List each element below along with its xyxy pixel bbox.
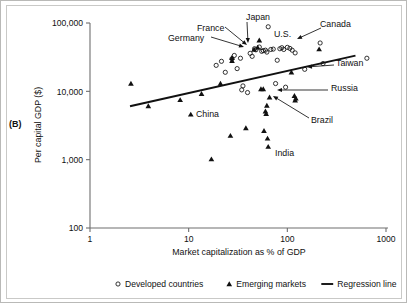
annotation-label-france: France bbox=[197, 23, 224, 33]
data-point-emerging bbox=[128, 81, 134, 86]
data-point-developed bbox=[285, 45, 289, 49]
x-tick-label: 1000 bbox=[376, 234, 395, 244]
x-tick-label: 1 bbox=[88, 234, 93, 244]
data-point-developed bbox=[283, 85, 287, 89]
annotation-leader-line bbox=[300, 28, 321, 38]
data-point-emerging bbox=[265, 144, 271, 149]
data-point-emerging bbox=[261, 128, 267, 133]
data-point-emerging bbox=[243, 125, 249, 130]
data-point-developed bbox=[238, 56, 242, 60]
annotation-label-taiwan: Taiwan bbox=[336, 58, 363, 68]
annotation-leader-line bbox=[276, 98, 309, 118]
data-point-developed bbox=[219, 59, 223, 63]
annotation-arrowhead bbox=[239, 44, 244, 48]
data-point-developed bbox=[266, 25, 270, 29]
legend-label-regression-line: Regression line bbox=[337, 279, 396, 289]
x-axis-ticks: 1101001000 bbox=[88, 228, 396, 244]
axes bbox=[90, 23, 388, 228]
scatter-plot-svg: 1001,00010,000100,000 1101001000 Market … bbox=[1, 1, 407, 303]
y-tick-label: 10,000 bbox=[57, 87, 84, 97]
annotation-label-brazil: Brazil bbox=[311, 115, 333, 125]
data-point-emerging bbox=[316, 46, 322, 51]
data-point-developed bbox=[250, 54, 254, 58]
x-axis-title: Market capitalization as % of GDP bbox=[172, 247, 306, 257]
data-point-emerging bbox=[188, 112, 194, 117]
annotation-label-china: China bbox=[196, 109, 219, 119]
data-point-developed bbox=[245, 90, 249, 94]
legend-label-developed-countries: Developed countries bbox=[125, 279, 203, 289]
annotation-label-india: India bbox=[275, 148, 294, 158]
data-point-developed bbox=[214, 63, 218, 67]
chart-area: 1001,00010,000100,000 1101001000 Market … bbox=[1, 1, 407, 303]
annotation-arrowhead bbox=[273, 96, 278, 100]
annotation-label-germany: Germany bbox=[168, 33, 205, 43]
data-point-emerging bbox=[264, 103, 270, 108]
annotation-label-russia: Russia bbox=[331, 83, 358, 93]
data-point-developed bbox=[235, 67, 239, 71]
data-point-developed bbox=[365, 56, 369, 60]
data-point-developed bbox=[241, 84, 245, 88]
annotation-leader-line bbox=[247, 22, 248, 39]
annotation-label-us: U.S. bbox=[274, 29, 291, 39]
legend-label-emerging-markets: Emerging markets bbox=[236, 279, 306, 289]
data-point-emerging bbox=[267, 95, 273, 100]
annotation-label-japan: Japan bbox=[246, 12, 270, 22]
y-axis-title: Per capital GDP ($) bbox=[33, 87, 43, 163]
y-tick-label: 1,000 bbox=[61, 155, 83, 165]
data-point-developed bbox=[223, 70, 227, 74]
legend-circle-icon bbox=[116, 282, 120, 286]
chart-legend: Developed countriesEmerging marketsRegre… bbox=[116, 279, 397, 289]
x-tick-label: 100 bbox=[280, 234, 295, 244]
data-point-developed bbox=[275, 58, 279, 62]
x-tick-label: 10 bbox=[184, 234, 194, 244]
figure-panel: (B) 1001,00010,000100,000 1101001000 Mar… bbox=[0, 0, 407, 303]
y-tick-label: 100,000 bbox=[52, 18, 83, 28]
legend-triangle-icon bbox=[226, 281, 232, 286]
data-point-emerging bbox=[199, 91, 205, 96]
data-point-emerging bbox=[209, 156, 215, 161]
data-point-emerging bbox=[228, 133, 234, 138]
annotation-leader-line bbox=[225, 27, 244, 43]
data-point-emerging bbox=[265, 136, 271, 141]
annotation-arrowhead bbox=[277, 88, 282, 92]
data-point-emerging bbox=[177, 97, 183, 102]
annotation-label-canada: Canada bbox=[320, 19, 351, 29]
y-axis-ticks: 1001,00010,000100,000 bbox=[52, 18, 90, 233]
data-point-developed bbox=[318, 41, 322, 45]
data-point-developed bbox=[248, 51, 252, 55]
annotation-leader-line bbox=[211, 37, 241, 46]
y-tick-label: 100 bbox=[69, 223, 84, 233]
data-point-emerging bbox=[145, 103, 151, 108]
data-point-emerging bbox=[256, 38, 262, 43]
data-point-emerging bbox=[218, 81, 224, 86]
data-point-developed bbox=[273, 81, 277, 85]
annotation-arrowhead bbox=[246, 38, 250, 43]
country-annotations: JapanFranceGermanyU.S.CanadaTaiwanRussia… bbox=[168, 12, 363, 158]
data-point-developed bbox=[293, 51, 297, 55]
